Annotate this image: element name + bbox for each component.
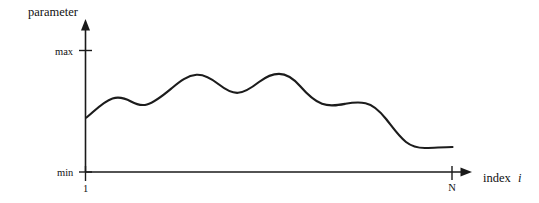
x-axis-title-word: index bbox=[483, 171, 512, 185]
x-axis-label-start: 1 bbox=[83, 183, 88, 194]
y-axis-title: parameter bbox=[28, 5, 79, 19]
parameter-vs-index-plot: parameter max min 1 N index i bbox=[0, 0, 539, 203]
y-axis-arrow-icon bbox=[81, 19, 90, 31]
parameter-curve bbox=[87, 74, 453, 148]
y-axis-label-max: max bbox=[55, 46, 74, 57]
x-axis-arrow-icon bbox=[461, 168, 473, 177]
figure-container: parameter max min 1 N index i bbox=[0, 0, 539, 203]
x-axis-label-end: N bbox=[448, 182, 456, 193]
x-axis-title-variable: i bbox=[518, 171, 522, 185]
x-axis-title: index i bbox=[483, 171, 522, 185]
y-axis-label-min: min bbox=[57, 167, 74, 178]
